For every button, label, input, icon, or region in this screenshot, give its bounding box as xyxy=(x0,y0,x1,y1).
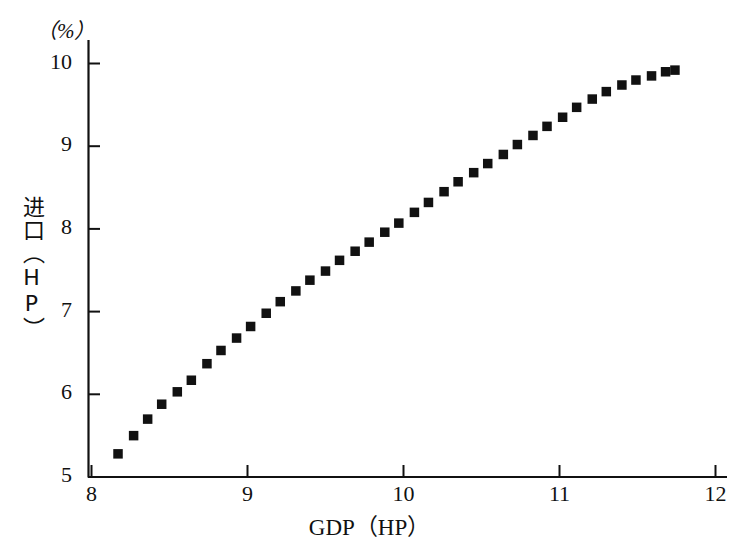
data-point-marker xyxy=(670,65,680,75)
data-point-marker xyxy=(647,71,657,81)
data-point-marker xyxy=(187,375,197,385)
data-point-marker xyxy=(572,103,582,113)
data-point-marker xyxy=(129,431,139,441)
data-point-marker xyxy=(394,218,404,228)
data-point-marker xyxy=(321,266,331,276)
data-point-marker xyxy=(380,227,390,237)
data-point-marker xyxy=(113,449,123,459)
data-point-marker xyxy=(631,75,641,85)
axis-lines xyxy=(88,40,727,478)
data-point-marker xyxy=(410,208,420,218)
data-point-marker xyxy=(350,246,360,256)
data-point-marker xyxy=(291,286,301,296)
data-point-marker xyxy=(542,122,552,131)
data-point-marker xyxy=(261,309,271,319)
chart-figure: （%） 进口（HP） GDP（HP） 567891089101112 xyxy=(0,0,739,557)
data-point-marker xyxy=(499,150,509,160)
data-point-marker xyxy=(513,140,523,150)
data-point-marker xyxy=(143,414,153,424)
data-point-marker xyxy=(335,256,345,265)
data-point-marker xyxy=(588,94,598,104)
x-axis-ticks xyxy=(92,465,716,477)
data-point-marker xyxy=(216,346,226,356)
data-point-marker xyxy=(157,399,167,409)
plot-area xyxy=(0,0,739,557)
data-point-marker xyxy=(305,275,315,285)
data-point-marker xyxy=(453,177,463,187)
data-point-marker xyxy=(232,333,242,343)
data-point-marker xyxy=(364,237,374,247)
data-point-marker xyxy=(558,113,568,123)
data-point-marker xyxy=(424,198,434,208)
data-point-marker xyxy=(202,359,212,369)
data-point-marker xyxy=(276,297,286,307)
data-point-marker xyxy=(617,80,627,90)
data-point-marker xyxy=(439,187,449,197)
data-point-marker xyxy=(483,159,493,169)
data-point-marker xyxy=(602,87,612,97)
data-point-marker xyxy=(661,67,671,77)
y-axis-ticks xyxy=(89,64,101,478)
data-point-group xyxy=(113,65,679,458)
data-point-marker xyxy=(528,131,538,141)
data-point-marker xyxy=(246,322,256,332)
data-point-marker xyxy=(173,387,183,397)
data-point-marker xyxy=(469,168,479,178)
